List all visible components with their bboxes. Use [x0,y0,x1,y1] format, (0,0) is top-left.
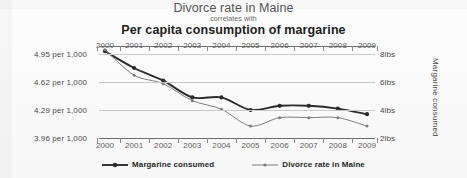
y-tick-label-left: 4.62 per 1,000 [0,78,87,87]
x-tick-top [207,46,208,51]
x-tick-bottom [265,138,266,143]
y-tick-label-left: 4.29 per 1,000 [0,106,87,115]
plot-top-border [99,46,375,47]
x-tick-label-bottom: 2005 [241,141,259,150]
chart-title-primary: Divorce rate in Maine [0,1,467,15]
x-tick-top [352,46,353,51]
series-line [105,50,367,126]
x-tick-label-bottom: 2004 [212,141,230,150]
x-tick-label-bottom: 2002 [154,141,172,150]
x-tick-label-bottom: 2009 [358,141,376,150]
grid-line [99,110,375,111]
x-tick-top [323,46,324,51]
x-tick-label-bottom: 2007 [300,141,318,150]
data-point [190,95,194,99]
x-tick-bottom [352,138,353,143]
x-tick-label-bottom: 2001 [125,141,143,150]
x-tick-bottom [149,138,150,143]
y-axis-right-title: Margarine consumed [431,58,440,137]
chart-legend: Margarine consumedDivorce rate in Maine [0,160,467,169]
data-point [249,125,252,128]
data-point [307,104,311,108]
data-point [336,116,339,119]
data-point [104,48,107,51]
y-tick-label-right: 2lbs [380,134,395,143]
y-tick-label-left: 4.95 per 1,000 [0,50,87,59]
legend-item: Margarine consumed [102,160,214,169]
x-tick-top [236,46,237,51]
chart-title-block: Divorce rate in Maine correlates with Pe… [0,1,467,38]
y-tick-label-right: 4lbs [380,106,395,115]
x-tick-bottom [377,138,378,143]
x-tick-bottom [236,138,237,143]
grid-line [99,82,375,83]
legend-label: Margarine consumed [132,160,214,169]
y-tick-label-right: 8lbs [380,50,395,59]
x-tick-label-bottom: 2006 [271,141,289,150]
legend-swatch-icon [252,161,278,169]
data-point [219,95,223,99]
chart-title-connector: correlates with [0,15,467,23]
chart-title-secondary: Per capita consumption of margarine [0,23,467,38]
data-point [307,116,310,119]
x-tick-label-bottom: 2003 [183,141,201,150]
series-divorce [104,48,369,127]
y-tick-label-left: 3.96 per 1,000 [0,134,87,143]
x-tick-top [178,46,179,51]
x-tick-bottom [294,138,295,143]
plot-area [99,54,375,138]
data-point [366,125,369,128]
y-tick-label-right: 6lbs [380,78,395,87]
data-point [191,99,194,102]
legend-item: Divorce rate in Maine [252,160,365,169]
x-tick-label-bottom: 2008 [329,141,347,150]
x-tick-bottom [120,138,121,143]
x-tick-top [294,46,295,51]
x-tick-top [265,46,266,51]
x-axis-line [99,138,375,139]
legend-label: Divorce rate in Maine [282,160,365,169]
x-tick-top [97,46,98,51]
x-tick-bottom [97,138,98,143]
chart-figure: Divorce rate in Maine correlates with Pe… [0,0,467,178]
legend-swatch-icon [102,161,128,169]
x-tick-top [120,46,121,51]
x-tick-bottom [207,138,208,143]
x-tick-label-bottom: 2000 [96,141,114,150]
grid-line [99,54,375,55]
series-lines [99,54,375,138]
data-point [133,74,136,77]
x-tick-top [149,46,150,51]
x-tick-bottom [323,138,324,143]
data-point [278,116,281,119]
x-tick-bottom [178,138,179,143]
data-point [132,66,136,70]
data-point [365,112,369,116]
data-point [278,104,282,108]
x-tick-top [377,46,378,51]
